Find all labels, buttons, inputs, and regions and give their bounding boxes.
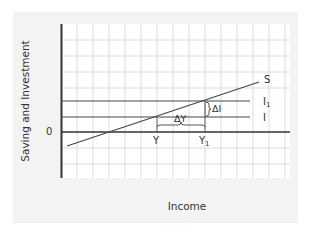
label-zero: 0 [46,126,52,137]
chart-svg: S I1 I ΔI ΔY Y Y1 0 Income Saving and In… [0,0,312,242]
y-axis-label: Saving and Investment [19,40,31,161]
label-y: Y [152,135,160,146]
x-axis-label: Income [168,200,207,212]
label-delta-i: ΔI [212,103,221,114]
label-delta-y: ΔY [174,113,186,124]
label-s: S [264,74,270,85]
label-i: I [263,112,266,123]
